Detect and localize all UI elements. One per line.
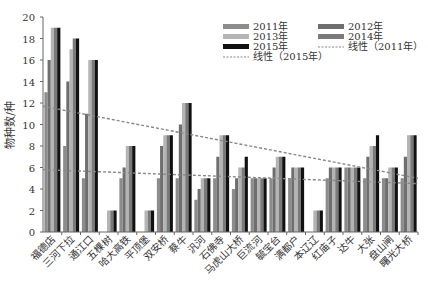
bar xyxy=(51,28,54,232)
bar xyxy=(54,28,57,232)
bar xyxy=(235,178,238,232)
bar xyxy=(110,211,113,233)
bar xyxy=(166,135,169,232)
y-axis-label: 物种数/种 xyxy=(3,101,17,149)
y-tick-label: 18 xyxy=(22,34,35,45)
bar-chart: 02468101214161820 福德店三河下拉通江口五棵树哈大高铁平顶堡双安… xyxy=(0,0,428,287)
bar xyxy=(194,200,197,232)
bar xyxy=(85,114,88,232)
x-tick-label: 蔡牛 xyxy=(166,233,189,256)
bar xyxy=(119,178,122,232)
bar xyxy=(182,103,185,232)
bar xyxy=(354,168,357,233)
bar xyxy=(288,178,291,232)
trendlines xyxy=(43,106,418,183)
bar-series xyxy=(44,28,416,232)
bar xyxy=(126,146,129,232)
bar xyxy=(176,178,179,232)
bar xyxy=(179,125,182,233)
bar xyxy=(401,178,404,232)
y-tick-label: 8 xyxy=(29,141,35,152)
legend-swatch xyxy=(223,24,249,29)
bar xyxy=(276,157,279,232)
chart-canvas: 02468101214161820 福德店三河下拉通江口五棵树哈大高铁平顶堡双安… xyxy=(0,0,428,287)
y-tick-label: 12 xyxy=(22,98,35,109)
bar xyxy=(273,168,276,233)
bar xyxy=(263,178,266,232)
bar xyxy=(76,39,79,233)
bar xyxy=(279,157,282,232)
x-axis: 福德店三河下拉通江口五棵树哈大高铁平顶堡双安桥蔡牛汎河石佛寺马虎山大桥巨流河毓宝… xyxy=(28,232,418,277)
bar xyxy=(132,146,135,232)
bar xyxy=(382,178,385,232)
bar xyxy=(395,168,398,233)
bar xyxy=(63,146,66,232)
bar xyxy=(335,168,338,233)
bar xyxy=(204,178,207,232)
bar xyxy=(220,135,223,232)
bar xyxy=(129,146,132,232)
bar xyxy=(151,211,154,233)
bar xyxy=(201,178,204,232)
bar xyxy=(48,60,51,232)
y-axis: 02468101214161820 xyxy=(22,12,43,238)
bar xyxy=(188,103,191,232)
legend-swatch xyxy=(318,34,344,39)
y-tick-label: 0 xyxy=(29,227,35,238)
bar xyxy=(73,39,76,233)
bar xyxy=(260,178,263,232)
legend-swatch xyxy=(223,34,249,39)
legend-label: 线性（2015年） xyxy=(253,50,328,62)
bar xyxy=(313,211,316,233)
y-tick-label: 2 xyxy=(29,206,35,217)
bar xyxy=(391,168,394,233)
bar xyxy=(198,189,201,232)
trendline xyxy=(43,170,418,184)
y-tick-label: 14 xyxy=(22,77,35,88)
bar xyxy=(348,168,351,233)
bar xyxy=(223,135,226,232)
bar xyxy=(213,178,216,232)
bar xyxy=(163,135,166,232)
bar xyxy=(269,178,272,232)
y-tick-label: 10 xyxy=(22,120,35,131)
bar xyxy=(373,146,376,232)
bar xyxy=(344,168,347,233)
bar xyxy=(298,168,301,233)
bar xyxy=(216,157,219,232)
bar xyxy=(185,103,188,232)
bar xyxy=(404,157,407,232)
bar xyxy=(370,146,373,232)
bar xyxy=(113,211,116,233)
bar xyxy=(145,211,148,233)
bar xyxy=(357,168,360,233)
bar xyxy=(291,168,294,233)
bar xyxy=(376,135,379,232)
bar xyxy=(338,168,341,233)
bar xyxy=(157,178,160,232)
bar xyxy=(329,168,332,233)
bar xyxy=(295,168,298,233)
bar xyxy=(44,92,47,232)
bar xyxy=(88,60,91,232)
trendline xyxy=(43,106,418,178)
bar xyxy=(160,146,163,232)
bar xyxy=(170,135,173,232)
y-tick-label: 4 xyxy=(29,184,35,195)
bar xyxy=(148,211,151,233)
bar xyxy=(95,60,98,232)
bar xyxy=(257,178,260,232)
y-tick-label: 6 xyxy=(29,163,35,174)
bar xyxy=(57,28,60,232)
bar xyxy=(332,168,335,233)
bar xyxy=(254,178,257,232)
bar xyxy=(70,49,73,232)
bar xyxy=(232,189,235,232)
legend-label: 线性（2011年） xyxy=(348,40,423,52)
legend: 2011年2012年2013年2014年2015年线性（2011年）线性（201… xyxy=(223,20,423,62)
bar xyxy=(107,211,110,233)
bar xyxy=(363,178,366,232)
bar xyxy=(385,178,388,232)
bar xyxy=(351,168,354,233)
bar xyxy=(251,178,254,232)
